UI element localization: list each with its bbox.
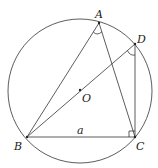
point-b	[26, 136, 28, 138]
segment-ac	[99, 23, 135, 137]
segment-ab	[27, 23, 99, 137]
label-c: C	[136, 140, 145, 153]
label-a: A	[94, 8, 103, 21]
geometry-diagram: A D O B C a	[0, 0, 158, 168]
point-o	[79, 89, 81, 91]
point-a	[98, 22, 100, 24]
point-d	[134, 43, 136, 45]
label-b: B	[13, 140, 22, 153]
angle-mark-d	[127, 51, 135, 56]
point-c	[134, 136, 136, 138]
side-label-a: a	[77, 124, 84, 137]
label-d: D	[136, 33, 146, 46]
label-o: O	[82, 92, 91, 105]
angle-mark-a	[93, 32, 102, 34]
